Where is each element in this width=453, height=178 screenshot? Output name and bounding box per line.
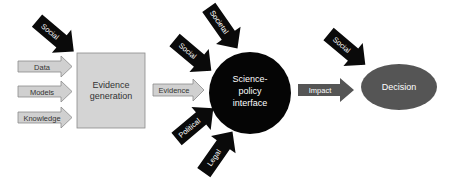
impact-flow-arrow: Impact — [298, 78, 354, 102]
evidence-flow-arrow: Evidence — [153, 79, 204, 101]
decision-ellipse: Decision — [361, 64, 437, 110]
knowledge-label: Knowledge — [23, 114, 60, 123]
societal-influence-arrow: Societal — [197, 0, 250, 57]
interface-label-line2: policy — [238, 86, 262, 96]
social-influence-arrow-interface: Social — [165, 29, 221, 83]
social-influence-arrow-evidence: Social — [27, 9, 83, 63]
decision-label: Decision — [382, 82, 417, 92]
evidence-generation-label-line2: generation — [90, 91, 133, 101]
evidence-generation-box: Evidence generation — [77, 53, 145, 128]
interface-label-line1: Science- — [232, 74, 267, 84]
knowledge-input-arrow: Knowledge — [18, 107, 72, 128]
data-label: Data — [34, 63, 51, 72]
data-input-arrow: Data — [18, 56, 72, 77]
models-input-arrow: Models — [18, 81, 72, 102]
models-label: Models — [30, 88, 54, 97]
social-influence-arrow-decision: Social — [319, 23, 375, 77]
evidence-generation-label-line1: Evidence — [92, 80, 129, 90]
evidence-label: Evidence — [159, 86, 190, 95]
interface-label-line3: interface — [233, 98, 268, 108]
impact-label: Impact — [309, 86, 332, 95]
evidence-to-decision-diagram: Social Data Models Knowledge Evidence ge… — [0, 0, 453, 178]
science-policy-interface-circle: Science- policy interface — [209, 52, 291, 134]
